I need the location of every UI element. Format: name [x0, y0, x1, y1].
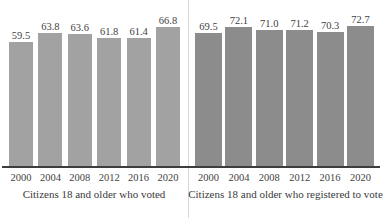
tick-label-year: 2016: [127, 171, 151, 184]
tick-label-year: 2008: [68, 171, 92, 184]
tick-label-year: 2012: [286, 171, 313, 184]
tick-label-year: 2000: [9, 171, 33, 184]
x-axis-line: [2, 166, 188, 168]
bar: [9, 42, 33, 166]
tick-label-year: 2004: [38, 171, 62, 184]
tick-label-year: 2016: [317, 171, 344, 184]
tick-label-year: 2008: [256, 171, 283, 184]
dual-bar-chart-figure: 59.5 63.8 63.6 61.8 61.4: [0, 0, 383, 218]
bar: [286, 30, 313, 167]
x-axis-tick-labels: 2000 2004 2008 2012 2016 2020: [0, 171, 188, 184]
panel-caption-registered: Citizens 18 and older who registered to …: [188, 187, 383, 201]
tick-label-year: 2012: [97, 171, 121, 184]
bar: [195, 33, 222, 166]
bar: [225, 27, 252, 166]
bar: [317, 32, 344, 167]
panel-registered: 69.5 72.1 71.0 71.2 70.3: [188, 0, 383, 218]
bar-slot: 72.7: [347, 0, 374, 166]
bar: [38, 33, 62, 166]
plot-area-voted: 59.5 63.8 63.6 61.8 61.4: [0, 0, 188, 166]
bar: [347, 26, 374, 166]
x-axis-tick-labels: 2000 2004 2008 2012 2016 2020: [188, 171, 383, 184]
tick-label-year: 2004: [225, 171, 252, 184]
panel-caption-voted: Citizens 18 and older who voted: [0, 187, 188, 201]
bar: [256, 30, 283, 166]
bar: [127, 38, 151, 166]
bar-slot: 61.8: [97, 0, 121, 166]
bar: [156, 27, 180, 166]
bar: [68, 34, 92, 167]
plot-area-registered: 69.5 72.1 71.0 71.2 70.3: [188, 0, 383, 166]
tick-label-year: 2020: [156, 171, 180, 184]
tick-label-year: 2000: [195, 171, 222, 184]
bar-value-label: 61.4: [116, 26, 162, 37]
tick-label-year: 2020: [347, 171, 374, 184]
panel-voted: 59.5 63.8 63.6 61.8 61.4: [0, 0, 188, 218]
bar-group-registered: 69.5 72.1 71.0 71.2 70.3: [188, 0, 383, 166]
bar-value-label: 66.8: [145, 15, 191, 26]
bar-slot: 66.8: [156, 0, 180, 166]
bar: [97, 38, 121, 167]
bar-value-label: 72.7: [337, 14, 383, 25]
bar-group-voted: 59.5 63.8 63.6 61.8 61.4: [0, 0, 188, 166]
x-axis-line: [188, 166, 380, 168]
